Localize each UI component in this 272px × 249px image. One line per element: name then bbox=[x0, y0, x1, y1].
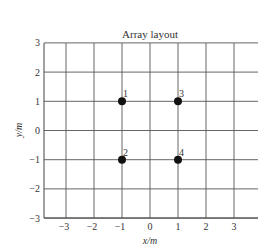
x-tick-label: −2 bbox=[87, 221, 98, 232]
array-layout-chart: −3−2−10123−3−2−10123Array layoutx/my/m12… bbox=[0, 0, 272, 249]
sensor-point-label: 3 bbox=[179, 88, 184, 99]
y-tick-label: 0 bbox=[35, 125, 40, 136]
x-tick-label: −1 bbox=[115, 221, 126, 232]
x-tick-label: −3 bbox=[59, 221, 70, 232]
chart-title: Array layout bbox=[122, 28, 178, 40]
x-axis-label: x/m bbox=[142, 235, 157, 246]
y-tick-label: 3 bbox=[35, 37, 40, 48]
sensor-point-label: 4 bbox=[179, 147, 184, 158]
y-tick-label: −3 bbox=[29, 213, 40, 224]
sensor-point-label: 1 bbox=[123, 88, 128, 99]
x-tick-label: 3 bbox=[232, 221, 237, 232]
y-tick-label: −1 bbox=[29, 154, 40, 165]
x-tick-label: 0 bbox=[148, 221, 153, 232]
y-tick-label: 1 bbox=[35, 96, 40, 107]
y-axis-label: y/m bbox=[13, 123, 24, 138]
y-tick-label: 2 bbox=[35, 67, 40, 78]
x-tick-label: 2 bbox=[204, 221, 209, 232]
sensor-point-label: 2 bbox=[123, 147, 128, 158]
x-tick-label: 1 bbox=[176, 221, 181, 232]
y-tick-label: −2 bbox=[29, 183, 40, 194]
